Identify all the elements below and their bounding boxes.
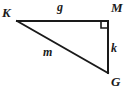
right-angle-marker-icon (101, 21, 108, 28)
vertex-label-g: G (111, 75, 120, 88)
vertex-label-m: M (111, 1, 123, 14)
side-label-k: k (111, 42, 117, 54)
geometry-figure: K M G g k m (0, 0, 126, 91)
side-label-m: m (43, 46, 52, 58)
vertex-label-k: K (2, 6, 11, 19)
side-label-g: g (57, 1, 63, 13)
triangle-drawing (0, 0, 126, 91)
side-kg-hypotenuse-line (17, 21, 108, 73)
